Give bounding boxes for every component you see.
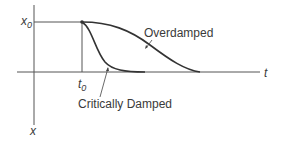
start-point (80, 20, 84, 24)
t-axis-label: t (264, 67, 267, 79)
critically-damped-label: Critically Damped (78, 98, 172, 110)
x-axis-label: x (30, 125, 36, 137)
overdamped-label: Overdamped (144, 27, 213, 39)
damping-diagram (0, 0, 282, 141)
x0-label: x0 (21, 15, 32, 30)
t0-label: t0 (78, 78, 86, 93)
critically-damped-arrowhead (106, 67, 109, 71)
critically-damped-curve (82, 22, 145, 72)
